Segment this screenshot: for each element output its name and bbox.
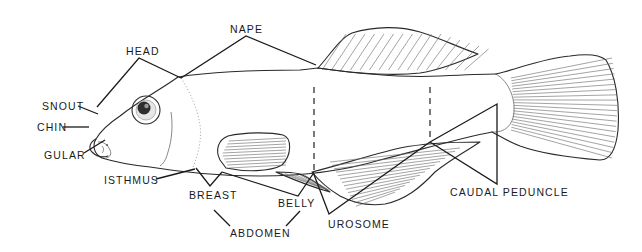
pectoral-fin bbox=[218, 133, 290, 171]
pectoral-fin-ray bbox=[224, 147, 286, 150]
label-nape: NAPE bbox=[230, 23, 263, 35]
caudal-fin-ray bbox=[514, 105, 617, 110]
label-abdomen: ABDOMEN bbox=[230, 227, 291, 239]
dorsal-fin-ray bbox=[398, 34, 422, 70]
pectoral-fin-ray bbox=[223, 150, 286, 153]
body-outline bbox=[94, 68, 496, 176]
label-belly: BELLY bbox=[278, 197, 315, 209]
eye bbox=[132, 96, 160, 124]
caudal-fin-ray bbox=[513, 95, 616, 97]
caudal-fin-ray bbox=[513, 114, 616, 127]
caudal-fin bbox=[492, 55, 618, 160]
caudal-fin-ray bbox=[511, 127, 613, 152]
breast-leader bbox=[196, 168, 222, 186]
caudal-fin-ray bbox=[512, 79, 615, 89]
label-chin: CHIN bbox=[37, 121, 67, 133]
dorsal-fin-ray bbox=[408, 34, 432, 70]
caudal-fin-ray bbox=[514, 103, 617, 106]
caudal-fin-ray bbox=[511, 63, 613, 80]
pectoral-fin-ray bbox=[229, 138, 286, 141]
caudal-fin-ray bbox=[513, 111, 616, 121]
caudal-fin-ray bbox=[512, 122, 614, 142]
pectoral-fin-ray bbox=[227, 141, 286, 144]
pectoral-fin-ray bbox=[227, 162, 286, 165]
label-snout: SNOUT bbox=[42, 100, 84, 112]
dorsal-fin-ray bbox=[427, 37, 451, 70]
dorsal-fin-ray bbox=[322, 34, 346, 70]
mouth bbox=[90, 139, 111, 158]
anal-fin-ray bbox=[342, 168, 430, 182]
head-boundary bbox=[181, 78, 201, 170]
pectoral-fin-ray bbox=[226, 159, 286, 162]
dorsal-fin-ray bbox=[446, 43, 470, 70]
caudal-fin-ray bbox=[514, 108, 617, 116]
dorsal-fin-ray bbox=[417, 34, 441, 70]
anal-fin-ray bbox=[330, 148, 460, 162]
dorsal-fin-ray bbox=[341, 34, 365, 70]
label-urosome: UROSOME bbox=[328, 218, 390, 230]
dorsal-fin bbox=[318, 28, 489, 75]
pectoral-fin-ray bbox=[224, 156, 286, 159]
labels: HEAD NAPE SNOUT CHIN GULAR ISTHMUS BREAS… bbox=[37, 23, 569, 239]
dorsal-fin-ray bbox=[379, 34, 403, 70]
caudal-fin-ray bbox=[513, 116, 616, 131]
anal-fin-ray bbox=[332, 151, 455, 165]
anal-fin-ray bbox=[338, 162, 440, 176]
pectoral-fin-ray bbox=[226, 144, 286, 147]
dorsal-fin-ray bbox=[465, 49, 489, 70]
abdomen-leader-left bbox=[214, 210, 230, 226]
label-isthmus: ISTHMUS bbox=[104, 174, 159, 186]
label-gular: GULAR bbox=[44, 149, 86, 161]
label-breast: BREAST bbox=[189, 189, 238, 201]
operculum bbox=[160, 112, 172, 166]
pectoral-fin-ray bbox=[223, 153, 286, 156]
abdomen-leader-right bbox=[286, 211, 300, 226]
fish-anatomy-diagram: HEAD NAPE SNOUT CHIN GULAR ISTHMUS BREAS… bbox=[0, 0, 642, 252]
dorsal-fin-ray bbox=[370, 34, 394, 70]
label-head: HEAD bbox=[126, 45, 160, 57]
anal-fin-ray bbox=[356, 192, 395, 206]
dorsal-fin-ray bbox=[389, 34, 413, 70]
anal-fin-ray bbox=[350, 182, 410, 196]
dorsal-fin-ray bbox=[351, 34, 375, 70]
dorsal-fin-ray bbox=[332, 34, 356, 70]
fish-illustration bbox=[90, 28, 619, 207]
dorsal-fin-ray bbox=[360, 34, 384, 70]
label-caudal-peduncle: CAUDAL PEDUNCLE bbox=[450, 186, 569, 198]
nape-leader bbox=[181, 36, 316, 78]
head-leader bbox=[97, 58, 181, 107]
caudal-fin-ray bbox=[511, 58, 612, 78]
